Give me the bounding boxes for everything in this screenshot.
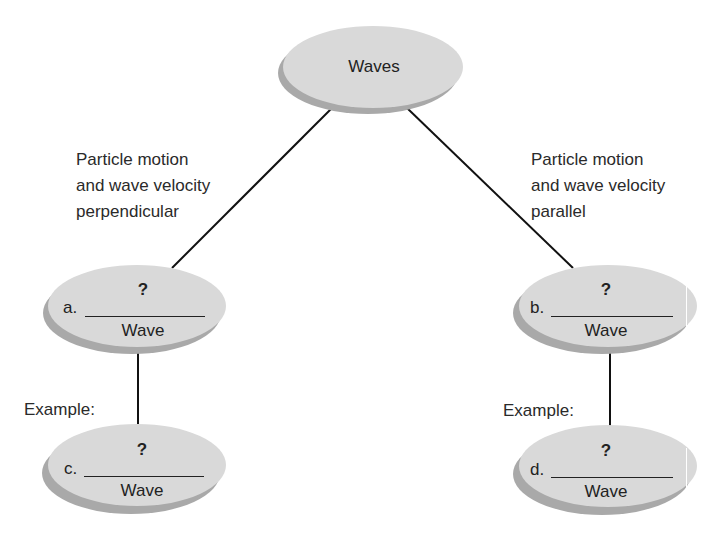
node-d-suffix: Wave <box>566 482 646 502</box>
scan-artifact-line <box>686 448 687 498</box>
node-d-letter: d. <box>530 460 544 480</box>
node-c-suffix: Wave <box>102 481 182 501</box>
node-d-blank-line <box>551 477 673 478</box>
node-a-letter: a. <box>63 298 77 318</box>
node-b-blank-line <box>551 316 673 317</box>
node-b-suffix: Wave <box>566 321 646 341</box>
blank-c-answer[interactable]: ? <box>112 440 172 460</box>
blank-b-answer[interactable]: ? <box>576 280 636 300</box>
root-label: Waves <box>280 57 468 77</box>
edge-label-perpendicular: Particle motion and wave velocity perpen… <box>76 150 210 222</box>
blank-d-answer[interactable]: ? <box>576 441 636 461</box>
node-a-transverse: ? a. Wave <box>43 265 229 357</box>
node-b-letter: b. <box>530 298 544 318</box>
node-c-example: ? c. Wave <box>42 424 230 518</box>
node-b-longitudinal: ? b. Wave <box>513 265 701 357</box>
example-label-right: Example: <box>503 401 574 421</box>
blank-a-answer[interactable]: ? <box>113 280 173 300</box>
example-label-left: Example: <box>24 400 95 420</box>
root-node: Waves <box>278 26 466 116</box>
node-d-example: ? d. Wave <box>513 425 701 519</box>
edge-label-parallel: Particle motion and wave velocity parall… <box>531 150 665 222</box>
scan-artifact-line <box>686 285 687 340</box>
node-c-letter: c. <box>64 459 77 479</box>
node-a-blank-line <box>85 316 205 317</box>
node-a-suffix: Wave <box>103 321 183 341</box>
node-c-blank-line <box>84 476 204 477</box>
